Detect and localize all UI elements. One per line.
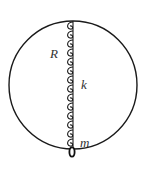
spring-hoop-diagram: R k m: [0, 0, 142, 171]
mass-bead: [69, 147, 74, 156]
mass-label: m: [80, 135, 89, 150]
spring-coil: [68, 22, 73, 146]
spring-constant-label: k: [81, 77, 87, 92]
radius-label: R: [49, 46, 58, 61]
